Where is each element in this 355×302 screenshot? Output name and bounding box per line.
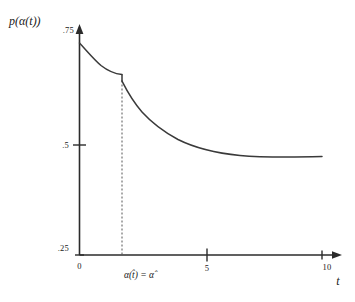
jump-annotation-label: α(t̂) = α̂ (124, 269, 158, 281)
x-axis-arrowhead (332, 251, 342, 259)
y-axis (73, 24, 86, 255)
curve-segment-before-jump (80, 43, 123, 75)
y-tick-label-0.25: .25 (58, 243, 69, 253)
chart-figure: .75 .5 .25 0 5 10 p(α(t)) t α(t̂) = α̂ (0, 0, 355, 302)
x-axis (80, 249, 343, 262)
y-axis-title: p(α(t)) (8, 14, 41, 28)
x-axis-title: t (336, 274, 340, 288)
curve-segment-after-jump (122, 81, 322, 157)
x-tick-label-10: 10 (323, 262, 332, 272)
y-tick-label-0.5: .5 (62, 140, 69, 150)
x-tick-label-0: 0 (77, 261, 81, 271)
y-tick-label-0.75: .75 (63, 25, 74, 35)
plot-canvas: .75 .5 .25 0 5 10 p(α(t)) t α(t̂) = α̂ (0, 0, 355, 302)
y-axis-arrowhead (76, 24, 84, 34)
x-tick-label-5: 5 (205, 263, 209, 273)
